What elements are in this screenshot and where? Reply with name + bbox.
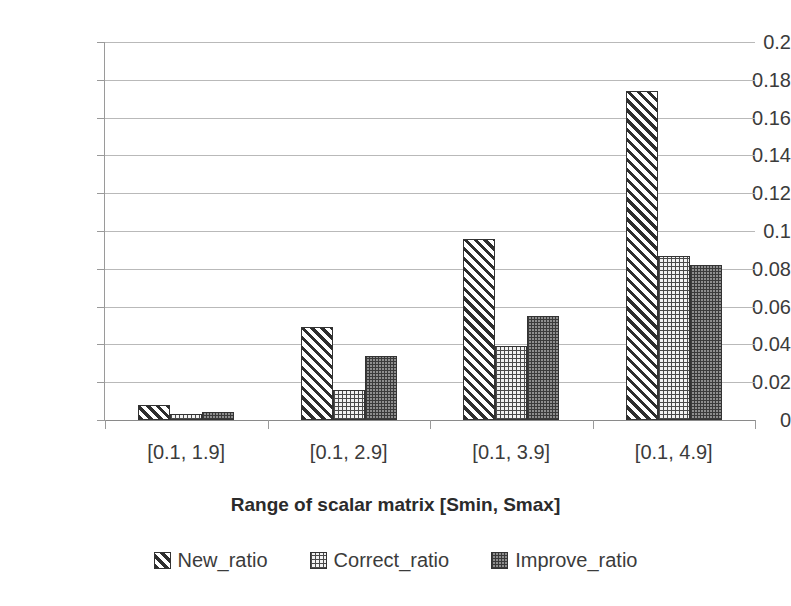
bar-group — [301, 42, 397, 420]
legend-label: Improve_ratio — [515, 549, 637, 571]
bar-improve-ratio[interactable] — [365, 356, 397, 420]
bar-group — [626, 42, 722, 420]
bar-correct-ratio[interactable] — [658, 256, 690, 420]
bar-improve-ratio[interactable] — [690, 265, 722, 420]
bar-group — [138, 42, 234, 420]
bar-improve-ratio[interactable] — [527, 316, 559, 420]
legend-item-improve-ratio[interactable]: Improve_ratio — [491, 549, 637, 571]
bar-chart: 00.020.040.060.080.10.120.140.160.180.2 … — [0, 0, 791, 606]
plot-area — [105, 42, 755, 420]
legend-swatch-icon — [491, 552, 508, 569]
bar-correct-ratio[interactable] — [495, 346, 527, 420]
bar-new-ratio[interactable] — [463, 239, 495, 420]
x-axis-category-label: [0.1, 4.9] — [593, 440, 756, 464]
x-axis-tick — [105, 420, 106, 429]
x-axis-tick — [268, 420, 269, 429]
legend-swatch-icon — [154, 552, 171, 569]
bar-new-ratio[interactable] — [301, 327, 333, 420]
x-axis-tick — [430, 420, 431, 429]
x-axis-category-label: [0.1, 2.9] — [268, 440, 431, 464]
x-axis-category-label: [0.1, 3.9] — [430, 440, 593, 464]
legend-swatch-icon — [310, 552, 327, 569]
bar-improve-ratio[interactable] — [202, 412, 234, 420]
x-axis-tick — [593, 420, 594, 429]
bar-correct-ratio[interactable] — [333, 390, 365, 420]
bar-new-ratio[interactable] — [138, 405, 170, 420]
x-axis-category-label: [0.1, 1.9] — [105, 440, 268, 464]
chart-legend: New_ratioCorrect_ratioImprove_ratio — [0, 549, 791, 571]
bar-new-ratio[interactable] — [626, 91, 658, 420]
x-axis-title: Range of scalar matrix [Smin, Smax] — [0, 494, 791, 516]
x-axis-tick — [755, 420, 756, 429]
legend-label: Correct_ratio — [334, 549, 450, 571]
legend-item-correct-ratio[interactable]: Correct_ratio — [310, 549, 450, 571]
legend-label: New_ratio — [178, 549, 268, 571]
legend-item-new-ratio[interactable]: New_ratio — [154, 549, 268, 571]
bar-group — [463, 42, 559, 420]
